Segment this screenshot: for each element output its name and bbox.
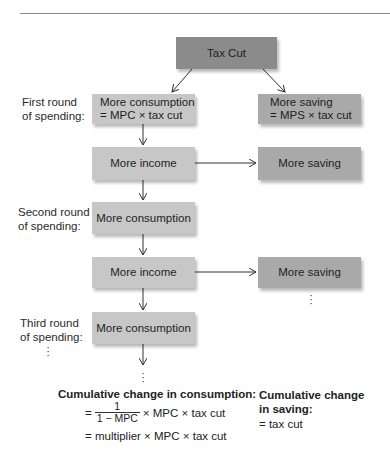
- round-1-consumption-node: More consumption = MPC × tax cut: [92, 94, 195, 124]
- cumulative-consumption-eq2: = multiplier × MPC × tax cut: [85, 430, 227, 442]
- cumulative-consumption-eq1: = 1 1 − MPC × MPC × tax cut: [85, 401, 225, 424]
- round-1-income-node: More income: [92, 147, 195, 180]
- round-3-label: Third round of spending:: [20, 317, 83, 344]
- round-2-consumption-node: More consumption: [92, 202, 195, 234]
- round-1-label: First round of spending:: [22, 96, 85, 123]
- cumulative-saving-title: Cumulative change in saving:: [259, 388, 364, 416]
- round-3-consumption-node: More consumption: [92, 312, 195, 344]
- round-2-income-node: More income: [92, 257, 195, 288]
- multiplier-fraction: 1 1 − MPC: [95, 401, 140, 424]
- round-3-saving-node: More saving: [258, 257, 361, 288]
- round-2-label: Second round of spending:: [18, 206, 90, 233]
- cumulative-saving-eq: = tax cut: [259, 418, 303, 430]
- saving-continuation-dots: ···: [308, 293, 314, 305]
- tax-cut-label: Tax Cut: [207, 47, 246, 60]
- round-2-saving-node: More saving: [258, 147, 361, 180]
- round-1-saving-node: More saving = MPS × tax cut: [258, 94, 361, 124]
- consumption-continuation-dots: ···: [140, 371, 146, 383]
- tax-cut-node: Tax Cut: [176, 37, 277, 69]
- cumulative-consumption-title: Cumulative change in consumption:: [58, 388, 256, 400]
- rounds-continuation-dots: ···: [45, 345, 51, 357]
